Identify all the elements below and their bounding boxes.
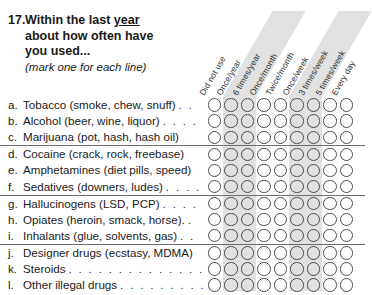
response-bubble-g-9[interactable] xyxy=(340,197,353,210)
response-bubble-d-6[interactable] xyxy=(290,148,303,161)
response-bubble-j-1[interactable] xyxy=(208,246,221,259)
response-bubble-j-2[interactable] xyxy=(224,246,237,259)
response-bubble-g-1[interactable] xyxy=(208,197,221,210)
response-bubble-a-3[interactable] xyxy=(241,98,254,111)
response-bubble-b-9[interactable] xyxy=(340,114,353,127)
response-bubble-f-3[interactable] xyxy=(241,180,254,193)
response-bubble-a-2[interactable] xyxy=(224,98,237,111)
response-bubble-g-5[interactable] xyxy=(274,197,287,210)
response-bubble-l-9[interactable] xyxy=(340,278,353,291)
response-bubble-k-1[interactable] xyxy=(208,262,221,275)
response-bubble-g-8[interactable] xyxy=(323,197,336,210)
response-bubble-b-6[interactable] xyxy=(290,114,303,127)
response-bubble-d-5[interactable] xyxy=(274,148,287,161)
response-bubble-d-9[interactable] xyxy=(340,148,353,161)
response-bubble-c-5[interactable] xyxy=(274,131,287,144)
response-bubble-d-8[interactable] xyxy=(323,148,336,161)
response-bubble-h-9[interactable] xyxy=(340,213,353,226)
response-bubble-a-4[interactable] xyxy=(257,98,270,111)
response-bubble-j-7[interactable] xyxy=(307,246,320,259)
response-bubble-k-5[interactable] xyxy=(274,262,287,275)
response-bubble-h-8[interactable] xyxy=(323,213,336,226)
response-bubble-f-5[interactable] xyxy=(274,180,287,193)
response-bubble-h-1[interactable] xyxy=(208,213,221,226)
response-bubble-e-6[interactable] xyxy=(290,164,303,177)
response-bubble-d-3[interactable] xyxy=(241,148,254,161)
response-bubble-e-8[interactable] xyxy=(323,164,336,177)
response-bubble-f-2[interactable] xyxy=(224,180,237,193)
response-bubble-i-6[interactable] xyxy=(290,229,303,242)
response-bubble-g-7[interactable] xyxy=(307,197,320,210)
response-bubble-l-1[interactable] xyxy=(208,278,221,291)
response-bubble-l-8[interactable] xyxy=(323,278,336,291)
response-bubble-b-4[interactable] xyxy=(257,114,270,127)
response-bubble-c-2[interactable] xyxy=(224,131,237,144)
response-bubble-l-5[interactable] xyxy=(274,278,287,291)
response-bubble-a-8[interactable] xyxy=(323,98,336,111)
response-bubble-a-1[interactable] xyxy=(208,98,221,111)
response-bubble-a-6[interactable] xyxy=(290,98,303,111)
response-bubble-h-3[interactable] xyxy=(241,213,254,226)
response-bubble-d-4[interactable] xyxy=(257,148,270,161)
response-bubble-h-4[interactable] xyxy=(257,213,270,226)
response-bubble-d-7[interactable] xyxy=(307,148,320,161)
response-bubble-k-3[interactable] xyxy=(241,262,254,275)
response-bubble-i-1[interactable] xyxy=(208,229,221,242)
response-bubble-i-7[interactable] xyxy=(307,229,320,242)
response-bubble-j-9[interactable] xyxy=(340,246,353,259)
response-bubble-k-8[interactable] xyxy=(323,262,336,275)
response-bubble-f-9[interactable] xyxy=(340,180,353,193)
response-bubble-g-3[interactable] xyxy=(241,197,254,210)
response-bubble-f-4[interactable] xyxy=(257,180,270,193)
response-bubble-h-2[interactable] xyxy=(224,213,237,226)
response-bubble-l-6[interactable] xyxy=(290,278,303,291)
response-bubble-e-5[interactable] xyxy=(274,164,287,177)
response-bubble-e-1[interactable] xyxy=(208,164,221,177)
response-bubble-k-6[interactable] xyxy=(290,262,303,275)
response-bubble-l-7[interactable] xyxy=(307,278,320,291)
response-bubble-l-4[interactable] xyxy=(257,278,270,291)
response-bubble-a-9[interactable] xyxy=(340,98,353,111)
response-bubble-e-2[interactable] xyxy=(224,164,237,177)
response-bubble-g-4[interactable] xyxy=(257,197,270,210)
response-bubble-f-1[interactable] xyxy=(208,180,221,193)
response-bubble-h-6[interactable] xyxy=(290,213,303,226)
response-bubble-j-6[interactable] xyxy=(290,246,303,259)
response-bubble-h-5[interactable] xyxy=(274,213,287,226)
response-bubble-g-2[interactable] xyxy=(224,197,237,210)
response-bubble-k-7[interactable] xyxy=(307,262,320,275)
response-bubble-g-6[interactable] xyxy=(290,197,303,210)
response-bubble-k-4[interactable] xyxy=(257,262,270,275)
response-bubble-e-4[interactable] xyxy=(257,164,270,177)
response-bubble-c-4[interactable] xyxy=(257,131,270,144)
response-bubble-e-3[interactable] xyxy=(241,164,254,177)
response-bubble-b-3[interactable] xyxy=(241,114,254,127)
response-bubble-i-2[interactable] xyxy=(224,229,237,242)
response-bubble-b-2[interactable] xyxy=(224,114,237,127)
response-bubble-i-9[interactable] xyxy=(340,229,353,242)
response-bubble-l-2[interactable] xyxy=(224,278,237,291)
response-bubble-e-7[interactable] xyxy=(307,164,320,177)
response-bubble-i-8[interactable] xyxy=(323,229,336,242)
response-bubble-a-5[interactable] xyxy=(274,98,287,111)
response-bubble-b-5[interactable] xyxy=(274,114,287,127)
response-bubble-k-9[interactable] xyxy=(340,262,353,275)
response-bubble-j-4[interactable] xyxy=(257,246,270,259)
response-bubble-d-1[interactable] xyxy=(208,148,221,161)
response-bubble-c-9[interactable] xyxy=(340,131,353,144)
response-bubble-c-8[interactable] xyxy=(323,131,336,144)
response-bubble-j-3[interactable] xyxy=(241,246,254,259)
response-bubble-j-8[interactable] xyxy=(323,246,336,259)
response-bubble-b-7[interactable] xyxy=(307,114,320,127)
response-bubble-e-9[interactable] xyxy=(340,164,353,177)
response-bubble-k-2[interactable] xyxy=(224,262,237,275)
response-bubble-f-8[interactable] xyxy=(323,180,336,193)
response-bubble-i-5[interactable] xyxy=(274,229,287,242)
response-bubble-c-6[interactable] xyxy=(290,131,303,144)
response-bubble-c-3[interactable] xyxy=(241,131,254,144)
response-bubble-f-6[interactable] xyxy=(290,180,303,193)
response-bubble-l-3[interactable] xyxy=(241,278,254,291)
response-bubble-i-4[interactable] xyxy=(257,229,270,242)
response-bubble-d-2[interactable] xyxy=(224,148,237,161)
response-bubble-a-7[interactable] xyxy=(307,98,320,111)
